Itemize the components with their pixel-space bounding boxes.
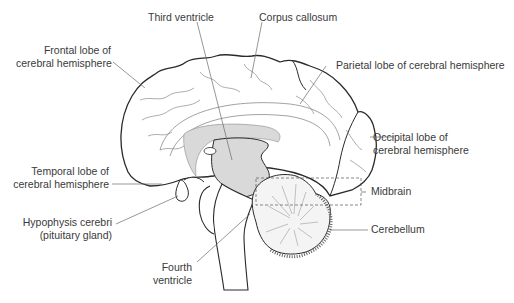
label-cerebellum: Cerebellum [371, 223, 425, 236]
label-third-ventricle: Third ventricle [148, 11, 214, 24]
brainstem [199, 184, 254, 290]
label-hypophysis: Hypophysis cerebri (pituitary gland) [8, 216, 112, 242]
brain-diagram: Third ventricle Corpus callosum Frontal … [0, 0, 514, 303]
label-occipital-lobe: Occipital lobe of cerebral hemisphere [373, 131, 469, 157]
label-midbrain: Midbrain [371, 185, 411, 198]
label-frontal-lobe: Frontal lobe of cerebral hemisphere [16, 44, 111, 70]
label-corpus-callosum: Corpus callosum [259, 11, 337, 24]
label-parietal-lobe: Parietal lobe of cerebral hemisphere [336, 59, 505, 72]
label-temporal-lobe: Temporal lobe of cerebral hemisphere [8, 165, 109, 191]
label-fourth-ventricle: Fourth ventricle [140, 261, 192, 287]
cerebellum [252, 175, 331, 257]
